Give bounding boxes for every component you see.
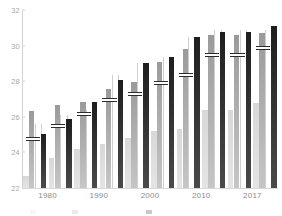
- bar-series-1-1995: [100, 144, 106, 189]
- bar-series-2-2010: [183, 49, 189, 188]
- bar-series-4-2000: [143, 63, 149, 188]
- legend-item-mean-marker: [184, 209, 192, 215]
- legend-swatch: [108, 210, 114, 214]
- bar-series-1-2005: [151, 131, 157, 188]
- bar-chart: 222426283032 19801990200020102017: [0, 0, 282, 216]
- x-axis-tick-label: 1980: [38, 191, 57, 200]
- bar-series-1-2000: [125, 138, 131, 188]
- bar-series-1-2017b: [253, 103, 259, 188]
- bar-series-4-2010: [194, 37, 200, 188]
- bar-series-2-2015: [208, 35, 214, 188]
- y-axis-tick-label: 22: [0, 184, 20, 193]
- bar-series-4-2005: [169, 57, 175, 188]
- x-axis-tick-label: 2010: [192, 191, 211, 200]
- mean-marker-2010: [179, 73, 193, 77]
- mean-marker-1995: [102, 98, 116, 102]
- bar-series-4-1980: [41, 134, 47, 188]
- bar-series-2-2017: [234, 35, 240, 188]
- bar-series-4-1995: [118, 80, 124, 188]
- bar-series-1-1985: [49, 158, 55, 188]
- bar-series-4-2017: [246, 32, 252, 188]
- bar-series-4-1985: [66, 119, 72, 188]
- x-axis-tick-label: 1990: [89, 191, 108, 200]
- bar-series-2-2017b: [259, 33, 265, 188]
- x-axis-tick-label: 2000: [141, 191, 160, 200]
- mean-marker-2015: [205, 53, 219, 57]
- mean-marker-1980: [26, 137, 40, 141]
- mean-marker-2000: [128, 92, 142, 96]
- bar-series-1-2017: [228, 110, 234, 188]
- legend-swatch: [184, 210, 190, 214]
- legend: [0, 208, 282, 216]
- x-axis-tick-label: 2017: [243, 191, 262, 200]
- bar-series-2-1985: [55, 105, 61, 188]
- y-axis-tick-label: 30: [0, 41, 20, 50]
- mean-marker-1985: [51, 124, 65, 128]
- mean-marker-2017b: [256, 46, 270, 50]
- bar-series-1-2010: [177, 129, 183, 188]
- y-axis-tick-label: 24: [0, 148, 20, 157]
- bar-series-4-1990: [92, 102, 98, 188]
- bar-series-2-2000: [131, 82, 137, 188]
- legend-swatch: [72, 210, 78, 214]
- legend-swatch: [146, 210, 152, 214]
- bar-series-4-2015: [220, 32, 226, 188]
- mean-marker-1990: [77, 112, 91, 116]
- legend-item-series-3: [108, 209, 116, 215]
- bar-series-2-1980: [29, 111, 35, 188]
- legend-swatch: [30, 210, 36, 214]
- plot-area: [22, 10, 278, 188]
- x-axis-line: [22, 188, 278, 189]
- legend-item-series-4: [146, 209, 154, 215]
- bar-series-2-1995: [106, 89, 112, 188]
- y-axis-tick-label: 28: [0, 77, 20, 86]
- bar-series-1-1990: [74, 149, 80, 188]
- mean-marker-2017: [230, 53, 244, 57]
- mean-marker-2005: [154, 81, 168, 85]
- y-axis-tick-label: 26: [0, 112, 20, 121]
- bar-series-1-2015: [202, 110, 208, 188]
- bar-series-1-1980: [23, 176, 29, 188]
- legend-item-series-2: [72, 209, 80, 215]
- y-axis-tick-label: 32: [0, 6, 20, 15]
- legend-item-series-1: [30, 209, 38, 215]
- bar-series-4-2017b: [271, 26, 277, 188]
